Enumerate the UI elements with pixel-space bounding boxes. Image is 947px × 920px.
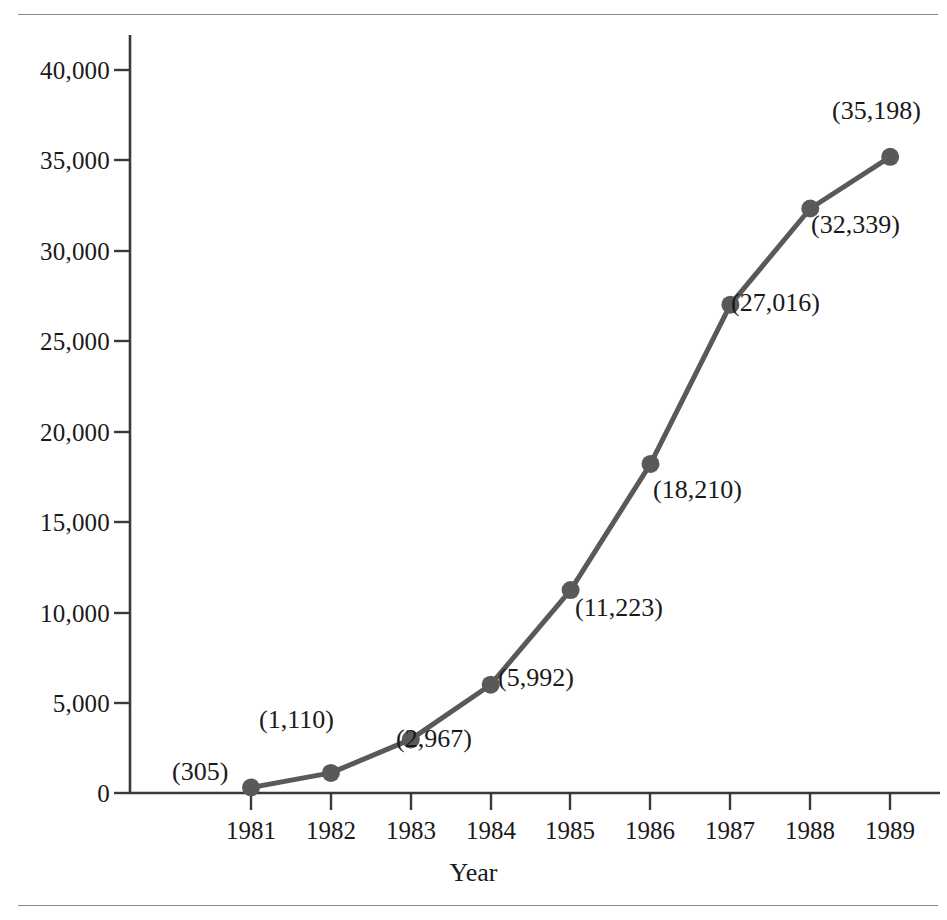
data-line <box>251 157 890 788</box>
point-value-label: (2,967) <box>396 726 472 752</box>
x-tick-label: 1984 <box>446 818 536 843</box>
y-tick-label: 35,000 <box>0 148 110 173</box>
point-value-label: (5,992) <box>498 665 574 691</box>
x-tick-label: 1986 <box>605 818 695 843</box>
data-point-marker <box>642 455 660 473</box>
x-tick-marks <box>251 793 890 810</box>
figure-frame: 0 5,000 10,000 15,000 20,000 25,000 30,0… <box>0 0 947 920</box>
point-value-label: (305) <box>172 759 228 785</box>
line-chart-plot <box>0 0 947 920</box>
data-point-marker <box>242 779 260 797</box>
x-tick-label: 1987 <box>685 818 775 843</box>
x-tick-label: 1981 <box>206 818 296 843</box>
point-value-label: (35,198) <box>832 98 921 124</box>
point-value-label: (32,339) <box>811 212 900 238</box>
x-tick-label: 1982 <box>286 818 376 843</box>
data-point-marker <box>322 764 340 782</box>
x-axis-title: Year <box>0 860 947 886</box>
y-tick-label: 5,000 <box>0 691 110 716</box>
y-tick-label: 15,000 <box>0 510 110 535</box>
x-tick-label: 1988 <box>765 818 855 843</box>
point-value-label: (18,210) <box>653 477 742 503</box>
y-tick-label: 20,000 <box>0 420 110 445</box>
point-value-label: (11,223) <box>575 595 663 621</box>
x-tick-label: 1989 <box>845 818 935 843</box>
x-tick-label: 1985 <box>525 818 615 843</box>
data-point-marker <box>482 676 500 694</box>
y-tick-label: 10,000 <box>0 601 110 626</box>
y-tick-label: 25,000 <box>0 329 110 354</box>
y-tick-label: 40,000 <box>0 58 110 83</box>
data-point-marker <box>881 148 899 166</box>
x-tick-label: 1983 <box>366 818 456 843</box>
point-value-label: (1,110) <box>259 707 334 733</box>
data-markers <box>242 148 899 797</box>
y-tick-label: 30,000 <box>0 239 110 264</box>
point-value-label: (27,016) <box>731 290 820 316</box>
y-tick-label: 0 <box>0 781 110 806</box>
y-tick-marks <box>114 70 130 793</box>
